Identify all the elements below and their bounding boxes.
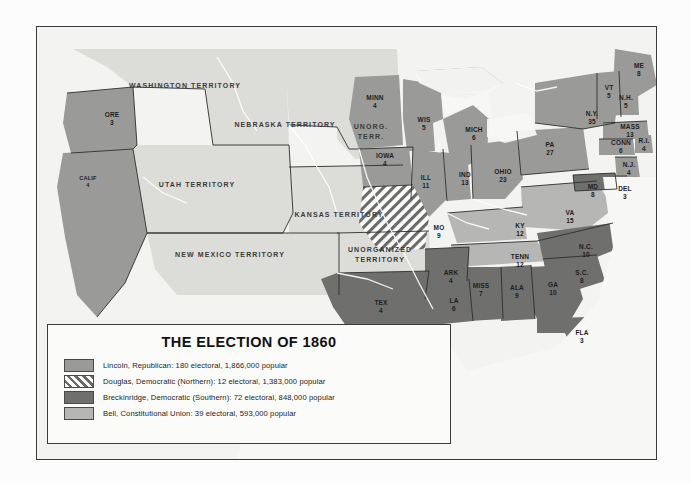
- legend-swatch-breckinridge: [64, 391, 94, 404]
- legend-label: Douglas, Democratic (Northern): 12 elect…: [103, 377, 325, 386]
- legend-title: THE ELECTION OF 1860: [48, 334, 450, 350]
- legend-swatch-douglas: [64, 375, 94, 388]
- election-map-frame: ORE3CALIF4MINN4WIS5MICH6IOWA4ILL11IND13O…: [36, 26, 657, 460]
- legend-entry-breckinridge: Breckinridge, Democratic (Southern): 72 …: [64, 391, 450, 404]
- legend-label: Breckinridge, Democratic (Southern): 72 …: [103, 393, 335, 402]
- legend-label: Lincoln, Republican: 180 electoral, 1,86…: [103, 361, 288, 370]
- legend-swatch-bell: [64, 407, 94, 420]
- legend-entry-douglas: Douglas, Democratic (Northern): 12 elect…: [64, 375, 450, 388]
- map-legend: THE ELECTION OF 1860 Lincoln, Republican…: [47, 324, 451, 444]
- map-page: ORE3CALIF4MINN4WIS5MICH6IOWA4ILL11IND13O…: [0, 0, 691, 483]
- legend-label: Bell, Constitutional Union: 39 electoral…: [103, 409, 296, 418]
- legend-entry-bell: Bell, Constitutional Union: 39 electoral…: [64, 407, 450, 420]
- legend-swatch-lincoln: [64, 359, 94, 372]
- legend-entry-lincoln: Lincoln, Republican: 180 electoral, 1,86…: [64, 359, 450, 372]
- legend-entry-list: Lincoln, Republican: 180 electoral, 1,86…: [48, 359, 450, 420]
